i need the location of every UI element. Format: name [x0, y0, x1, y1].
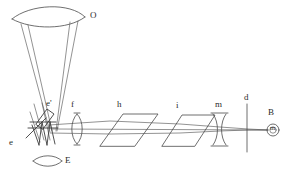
- objective-lens-O: [12, 7, 85, 27]
- label-observer-B: B: [268, 108, 274, 117]
- label-lens-f: f: [71, 100, 74, 109]
- optical-diagram: O e' e E f h i m d B m: [0, 0, 287, 176]
- lower-prism-e: [26, 118, 58, 145]
- label-plate-h: h: [117, 100, 122, 109]
- label-lens-m: m: [215, 100, 222, 109]
- ray-cone-from-objective: [21, 21, 78, 132]
- label-screen-d: d: [244, 93, 249, 102]
- label-plate-i: i: [176, 101, 179, 110]
- label-lower-prism-e: e: [9, 138, 13, 147]
- diagram-canvas: [0, 0, 287, 176]
- label-upper-prism-e-prime: e': [46, 99, 52, 108]
- plate-i: [162, 115, 215, 146]
- lower-eyepiece-lens-E: [33, 156, 62, 167]
- label-objective-lens-O: O: [90, 11, 97, 20]
- label-observer-symbol: m: [270, 125, 275, 132]
- plate-h: [100, 114, 158, 146]
- label-lower-eyepiece-lens-E: E: [65, 156, 71, 165]
